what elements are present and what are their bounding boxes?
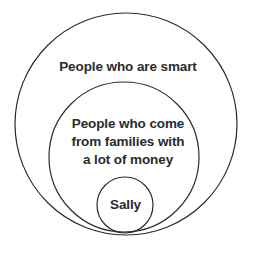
middle-circle-label-line-2: from families with: [0, 133, 256, 151]
middle-circle-label-line-1: People who come: [0, 115, 256, 133]
inner-circle-label: Sally: [97, 196, 154, 214]
outer-circle-label: People who are smart: [0, 58, 256, 76]
middle-circle-label-line-3: a lot of money: [0, 151, 256, 169]
middle-circle-label: People who come from families with a lot…: [0, 115, 256, 169]
venn-diagram: People who are smart People who come fro…: [0, 0, 256, 253]
